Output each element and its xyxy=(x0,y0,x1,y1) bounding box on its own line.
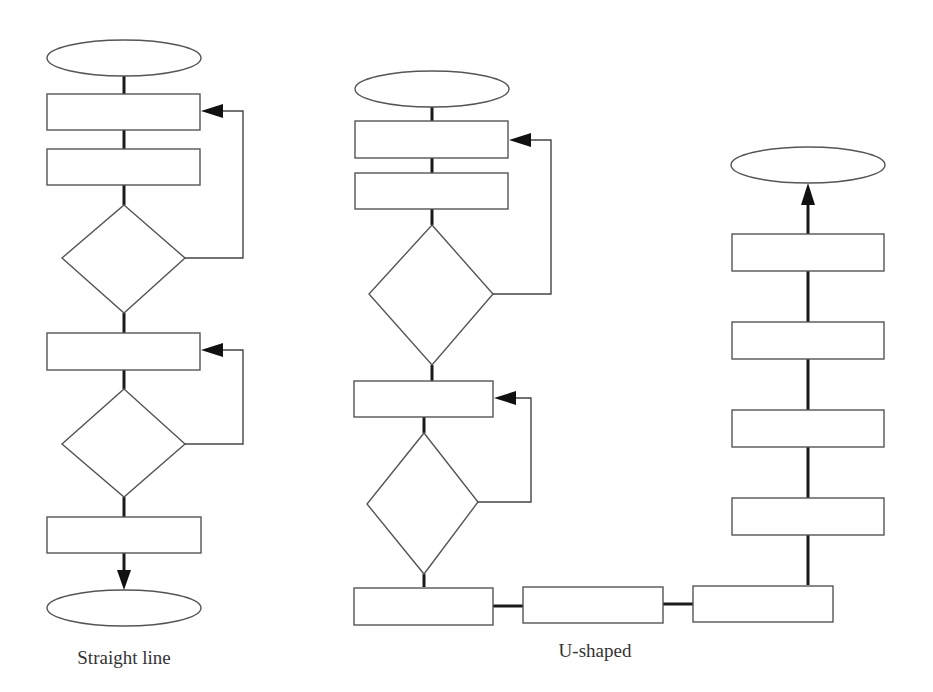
process-box xyxy=(354,381,493,417)
process-box xyxy=(47,333,200,370)
decision-diamond xyxy=(369,225,493,365)
process-box xyxy=(523,587,663,623)
u-shaped-caption: U-shaped xyxy=(559,640,632,662)
arrow-up-icon xyxy=(801,183,815,205)
end-terminator xyxy=(47,590,201,626)
process-box xyxy=(355,121,508,158)
straight-line-flowchart xyxy=(47,40,243,626)
process-box xyxy=(693,586,833,622)
arrow-left-icon xyxy=(201,104,223,118)
decision-diamond xyxy=(367,433,478,574)
arrow-down-icon xyxy=(117,570,131,590)
decision-diamond xyxy=(62,205,185,313)
process-box xyxy=(732,322,884,359)
start-terminator xyxy=(47,40,201,76)
flowchart-diagrams xyxy=(0,0,933,692)
start-terminator xyxy=(355,71,509,107)
process-box xyxy=(732,498,884,535)
arrow-left-icon xyxy=(201,343,223,357)
feedback-loop xyxy=(493,140,551,294)
process-box xyxy=(732,234,884,271)
process-box xyxy=(355,173,508,209)
decision-diamond xyxy=(62,389,185,497)
process-box xyxy=(47,94,200,130)
end-terminator xyxy=(731,147,885,183)
arrow-left-icon xyxy=(494,391,516,405)
process-box xyxy=(354,588,493,625)
u-shaped-flowchart xyxy=(354,71,885,625)
process-box xyxy=(47,149,200,185)
arrow-left-icon xyxy=(509,133,531,147)
process-box xyxy=(47,517,201,553)
straight-line-caption: Straight line xyxy=(77,647,170,669)
process-box xyxy=(732,410,884,447)
